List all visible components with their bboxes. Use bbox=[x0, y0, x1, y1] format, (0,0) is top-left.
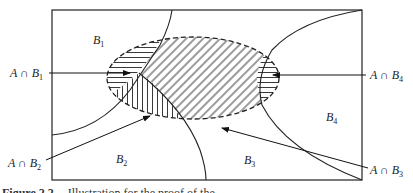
arrow-A-cap-B2 bbox=[46, 116, 150, 160]
label-A-cap-B4: A ∩ B4 bbox=[370, 68, 403, 84]
diagram-canvas bbox=[0, 0, 413, 193]
boundary-B3-B4 bbox=[260, 10, 362, 180]
label-B4: B4 bbox=[326, 110, 337, 126]
partition-venn-diagram: B1 B2 B3 B4 A ∩ B1 A ∩ B2 A ∩ B3 A ∩ B4 … bbox=[0, 0, 413, 193]
label-A-cap-B3: A ∩ B3 bbox=[370, 163, 403, 179]
region-A-cap-B4 bbox=[257, 40, 290, 118]
label-B2: B2 bbox=[116, 152, 127, 168]
label-A-cap-B2: A ∩ B2 bbox=[8, 156, 41, 172]
set-A-interior bbox=[100, 30, 300, 130]
figure-caption: Figure 2.2Illustration for the proof of … bbox=[2, 186, 215, 193]
figure-number: Figure 2.2 bbox=[2, 186, 54, 193]
label-B3: B3 bbox=[244, 153, 255, 169]
label-A-cap-B1: A ∩ B1 bbox=[10, 66, 43, 82]
label-B1: B1 bbox=[93, 33, 104, 49]
caption-text: Illustration for the proof of the bbox=[68, 186, 215, 193]
